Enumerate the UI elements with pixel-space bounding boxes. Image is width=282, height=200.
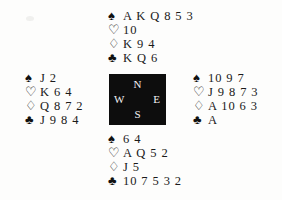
compass-south-label: S (109, 109, 166, 120)
hand-south: ♠ 6 4 ♡ A Q 5 2 ♢ J 5 ♣ 10 7 5 3 2 (108, 132, 182, 188)
north-diamonds-row: ♢ K 9 4 (108, 37, 194, 51)
east-hearts-row: ♡ J 9 8 7 3 (193, 85, 258, 99)
south-diamonds-row: ♢ J 5 (108, 160, 182, 174)
spade-icon: ♠ (108, 132, 121, 146)
west-hearts-cards: K 6 4 (38, 85, 72, 99)
spade-icon: ♠ (108, 9, 121, 23)
east-diamonds-row: ♢ A 10 6 3 (193, 99, 258, 113)
north-hearts-cards: 10 (121, 23, 137, 37)
west-diamonds-cards: Q 8 7 2 (38, 99, 83, 113)
heart-icon: ♡ (193, 85, 206, 99)
heart-icon: ♡ (108, 146, 121, 160)
south-spades-cards: 6 4 (121, 132, 141, 146)
north-spades-row: ♠ A K Q 8 5 3 (108, 9, 194, 23)
north-diamonds-cards: K 9 4 (121, 37, 155, 51)
spade-icon: ♠ (25, 71, 38, 85)
club-icon: ♣ (108, 51, 121, 65)
hand-east: ♠ 10 9 7 ♡ J 9 8 7 3 ♢ A 10 6 3 ♣ A (193, 71, 258, 127)
compass-north-label: N (109, 79, 166, 90)
west-clubs-cards: J 9 8 4 (38, 113, 79, 127)
south-hearts-cards: A Q 5 2 (121, 146, 169, 160)
bridge-deal-diagram: ♠ A K Q 8 5 3 ♡ 10 ♢ K 9 4 ♣ K Q 6 ♠ J 2… (0, 0, 282, 200)
east-diamonds-cards: A 10 6 3 (206, 99, 258, 113)
west-clubs-row: ♣ J 9 8 4 (25, 113, 83, 127)
compass-west-label: W (114, 94, 124, 105)
diamond-icon: ♢ (108, 37, 121, 51)
club-icon: ♣ (108, 174, 121, 188)
south-diamonds-cards: J 5 (121, 160, 140, 174)
north-spades-cards: A K Q 8 5 3 (121, 9, 194, 23)
west-hearts-row: ♡ K 6 4 (25, 85, 83, 99)
diamond-icon: ♢ (108, 160, 121, 174)
east-spades-cards: 10 9 7 (206, 71, 245, 85)
club-icon: ♣ (193, 113, 206, 127)
west-diamonds-row: ♢ Q 8 7 2 (25, 99, 83, 113)
north-clubs-cards: K Q 6 (121, 51, 158, 65)
hand-north: ♠ A K Q 8 5 3 ♡ 10 ♢ K 9 4 ♣ K Q 6 (108, 9, 194, 65)
diamond-icon: ♢ (25, 99, 38, 113)
scan-artifact (26, 16, 34, 21)
north-hearts-row: ♡ 10 (108, 23, 194, 37)
south-spades-row: ♠ 6 4 (108, 132, 182, 146)
east-spades-row: ♠ 10 9 7 (193, 71, 258, 85)
south-hearts-row: ♡ A Q 5 2 (108, 146, 182, 160)
compass-east-label: E (153, 94, 160, 105)
hand-west: ♠ J 2 ♡ K 6 4 ♢ Q 8 7 2 ♣ J 9 8 4 (25, 71, 83, 127)
north-clubs-row: ♣ K Q 6 (108, 51, 194, 65)
west-spades-row: ♠ J 2 (25, 71, 83, 85)
spade-icon: ♠ (193, 71, 206, 85)
south-clubs-row: ♣ 10 7 5 3 2 (108, 174, 182, 188)
heart-icon: ♡ (108, 23, 121, 37)
club-icon: ♣ (25, 113, 38, 127)
east-clubs-cards: A (206, 113, 218, 127)
east-hearts-cards: J 9 8 7 3 (206, 85, 258, 99)
east-clubs-row: ♣ A (193, 113, 258, 127)
south-clubs-cards: 10 7 5 3 2 (121, 174, 182, 188)
diamond-icon: ♢ (193, 99, 206, 113)
west-spades-cards: J 2 (38, 71, 57, 85)
compass-box: N W E S (109, 74, 166, 125)
heart-icon: ♡ (25, 85, 38, 99)
